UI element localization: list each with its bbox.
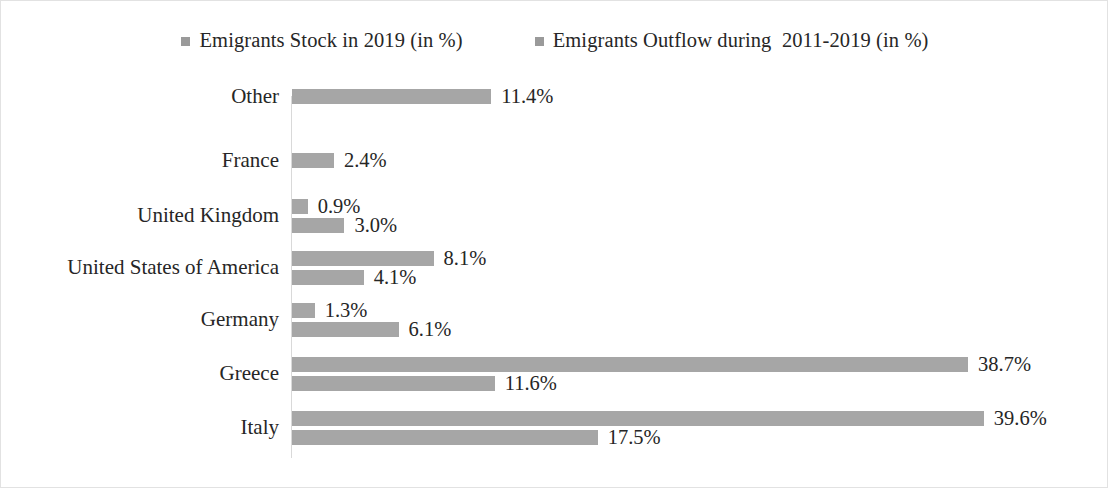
category-axis-label: Greece: [0, 361, 279, 386]
bar-line: 39.6%: [292, 411, 1047, 426]
category-axis-label: France: [0, 148, 279, 173]
legend-entry[interactable]: Emigrants Stock in 2019 (in %): [181, 29, 462, 52]
bar[interactable]: [292, 322, 399, 337]
chart-legend: Emigrants Stock in 2019 (in %)Emigrants …: [1, 29, 1108, 52]
bar[interactable]: [292, 430, 598, 445]
category-bar-group: 8.1%4.1%: [292, 251, 486, 285]
bar-value-label: 0.9%: [318, 199, 361, 214]
category-axis-label: Other: [0, 84, 279, 109]
bar-value-label: 2.4%: [344, 153, 387, 168]
legend-entry[interactable]: Emigrants Outflow during 2011-2019 (in %…: [535, 29, 929, 52]
bar-line: 0.9%: [292, 199, 397, 214]
category-bar-group: 39.6%17.5%: [292, 411, 1047, 445]
bar[interactable]: [292, 251, 434, 266]
bar-line: 2.4%: [292, 153, 387, 168]
emigrants-bar-chart-figure: Emigrants Stock in 2019 (in %)Emigrants …: [0, 0, 1108, 488]
bar-line: 8.1%: [292, 251, 486, 266]
bar[interactable]: [292, 270, 364, 285]
category-bar-group: 0.9%3.0%: [292, 199, 397, 233]
category-bar-group: 2.4%: [292, 153, 387, 168]
legend-swatch-outflow-icon: [535, 37, 544, 46]
bar[interactable]: [292, 411, 984, 426]
bar-value-label: 11.4%: [501, 89, 553, 104]
chart-plot-area: Other11.4%France2.4%United Kingdom0.9%3.…: [1, 89, 1108, 464]
bar-value-label: 1.3%: [325, 303, 368, 318]
legend-swatch-stock-icon: [181, 37, 190, 46]
bar-value-label: 39.6%: [994, 411, 1047, 426]
bar-value-label: 6.1%: [409, 322, 452, 337]
category-axis-label: United Kingdom: [0, 203, 279, 228]
category-axis-label: Germany: [0, 307, 279, 332]
category-bar-group: 11.4%: [292, 89, 553, 104]
legend-label: Emigrants Outflow during 2011-2019 (in %…: [553, 29, 929, 52]
bar-line: 11.4%: [292, 89, 553, 104]
category-axis-label: United States of America: [0, 255, 279, 280]
bar-line: 1.3%: [292, 303, 451, 318]
bar[interactable]: [292, 303, 315, 318]
bar-value-label: 4.1%: [374, 270, 417, 285]
bar-value-label: 8.1%: [444, 251, 487, 266]
category-bar-group: 1.3%6.1%: [292, 303, 451, 337]
bar-line: 38.7%: [292, 357, 1031, 372]
bar-value-label: 11.6%: [505, 376, 557, 391]
bar-value-label: 3.0%: [354, 218, 397, 233]
bar[interactable]: [292, 153, 334, 168]
bar-line: 4.1%: [292, 270, 486, 285]
bar-value-label: 17.5%: [608, 430, 661, 445]
bar[interactable]: [292, 357, 968, 372]
bar[interactable]: [292, 89, 491, 104]
bar[interactable]: [292, 218, 344, 233]
category-bar-group: 38.7%11.6%: [292, 357, 1031, 391]
legend-label: Emigrants Stock in 2019 (in %): [199, 29, 462, 52]
bar-line: 3.0%: [292, 218, 397, 233]
bar-line: 11.6%: [292, 376, 1031, 391]
bar-value-label: 38.7%: [978, 357, 1031, 372]
bar[interactable]: [292, 199, 308, 214]
category-axis-label: Italy: [0, 415, 279, 440]
bar[interactable]: [292, 376, 495, 391]
bar-line: 6.1%: [292, 322, 451, 337]
bar-line: 17.5%: [292, 430, 1047, 445]
